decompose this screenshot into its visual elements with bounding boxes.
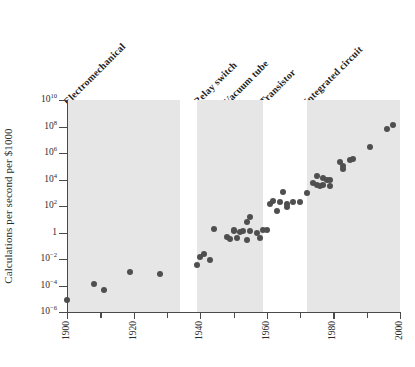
x-tick-label: 1960	[262, 321, 272, 340]
data-point	[227, 236, 233, 242]
data-point	[304, 190, 310, 196]
y-axis-title: Calculations per second per $1000	[2, 100, 18, 312]
era-label: Electromechanical	[61, 41, 127, 107]
y-tick-label: 10−2	[40, 254, 57, 264]
y-tick	[59, 153, 67, 154]
era-band	[197, 100, 264, 312]
y-tick-label: 108	[44, 122, 57, 132]
y-tick-label: 102	[44, 201, 57, 211]
y-tick-label: 106	[44, 148, 57, 158]
data-point	[194, 262, 200, 268]
data-point	[367, 144, 373, 150]
data-point	[277, 199, 283, 205]
data-point	[91, 281, 97, 287]
data-point	[384, 126, 390, 132]
data-point	[340, 166, 346, 172]
y-tick	[59, 233, 67, 234]
y-tick	[59, 206, 67, 207]
x-tick-label: 2000	[395, 321, 405, 340]
x-tick-label: 1900	[62, 321, 72, 340]
data-point	[201, 251, 207, 257]
x-axis-line	[67, 312, 401, 313]
data-point	[211, 226, 217, 232]
data-point	[240, 228, 246, 234]
y-tick	[59, 286, 67, 287]
data-point	[390, 122, 396, 128]
y-tick	[59, 100, 67, 101]
data-point	[244, 219, 250, 225]
y-tick-label: 10−6	[40, 307, 57, 317]
data-point	[127, 269, 133, 275]
era-band	[67, 100, 180, 312]
data-point	[327, 183, 333, 189]
data-point	[270, 198, 276, 204]
y-tick	[59, 127, 67, 128]
data-point	[207, 257, 213, 263]
era-label: Integrated circuit	[301, 44, 364, 107]
data-point	[274, 208, 280, 214]
data-point	[264, 227, 270, 233]
y-tick-label: 104	[44, 175, 57, 185]
data-point	[101, 287, 107, 293]
y-tick-label: 10−4	[40, 281, 57, 291]
data-point	[257, 235, 263, 241]
y-tick	[59, 312, 67, 313]
data-point	[247, 214, 253, 220]
chart-figure: ElectromechanicalRelay switchVacuum tube…	[0, 0, 415, 367]
data-point	[247, 228, 253, 234]
data-point	[231, 227, 237, 233]
plot-area: 1010108106104102110−210−410−6 1900192019…	[67, 100, 400, 312]
x-tick-label: 1920	[129, 321, 139, 340]
data-point	[297, 199, 303, 205]
data-point	[350, 156, 356, 162]
data-point	[157, 271, 163, 277]
y-tick	[59, 180, 67, 181]
y-axis-line	[67, 100, 68, 313]
data-point	[314, 173, 320, 179]
data-point	[284, 204, 290, 210]
data-point	[234, 235, 240, 241]
y-tick-label: 1	[52, 228, 57, 238]
x-tick-label: 1980	[329, 321, 339, 340]
data-point	[290, 199, 296, 205]
x-tick-label: 1940	[195, 321, 205, 340]
y-tick-label: 1010	[41, 95, 57, 105]
data-point	[244, 237, 250, 243]
data-point	[280, 189, 286, 195]
y-tick	[59, 259, 67, 260]
data-point	[327, 177, 333, 183]
